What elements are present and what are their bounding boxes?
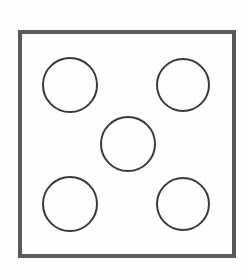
diagram-background <box>0 0 251 276</box>
figure-root <box>0 0 251 276</box>
diagram-canvas <box>0 0 251 276</box>
